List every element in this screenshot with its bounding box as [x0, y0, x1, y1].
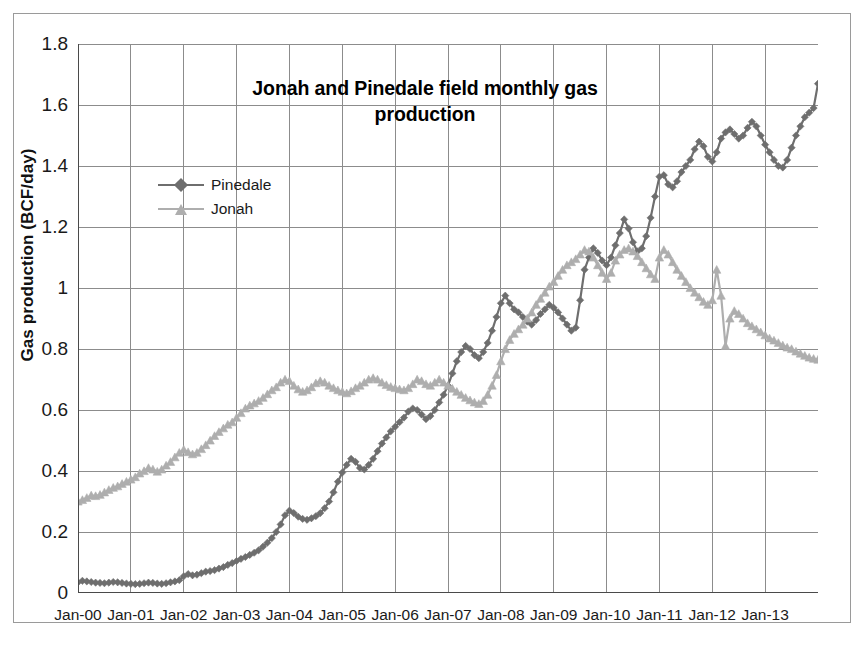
- legend-marker-diamond-icon: [158, 178, 204, 192]
- y-axis-tick-label: 0.6: [12, 400, 68, 419]
- y-axis-tick-label: 0.8: [12, 339, 68, 358]
- y-axis-tick-label: 0.2: [12, 522, 68, 541]
- x-axis-tick-label: Jan-13: [730, 607, 800, 623]
- chart-legend: Pinedale Jonah: [158, 173, 308, 221]
- chart-title: Jonah and Pinedale field monthly gas pro…: [215, 76, 635, 127]
- legend-label-jonah: Jonah: [211, 201, 253, 217]
- y-axis-title: Gas production (BCF/day): [18, 95, 38, 415]
- y-axis-tick-label: 0.4: [12, 461, 68, 480]
- y-axis-tick-label: 1.6: [12, 95, 68, 114]
- legend-marker-triangle-icon: [158, 202, 204, 216]
- y-axis-tick-label: 0: [12, 583, 68, 602]
- y-axis-tick-label: 1.4: [12, 156, 68, 175]
- legend-label-pinedale: Pinedale: [211, 177, 271, 193]
- chart-title-line2: production: [215, 102, 635, 128]
- y-axis-tick-label: 1: [12, 278, 68, 297]
- y-axis-tick-label: 1.2: [12, 217, 68, 236]
- y-axis-tick-label: 1.8: [12, 34, 68, 53]
- chart-title-line1: Jonah and Pinedale field monthly gas: [215, 76, 635, 102]
- legend-item-pinedale: Pinedale: [158, 173, 308, 197]
- legend-item-jonah: Jonah: [158, 197, 308, 221]
- chart-figure: Gas production (BCF/day) 1.81.61.41.210.…: [0, 0, 868, 646]
